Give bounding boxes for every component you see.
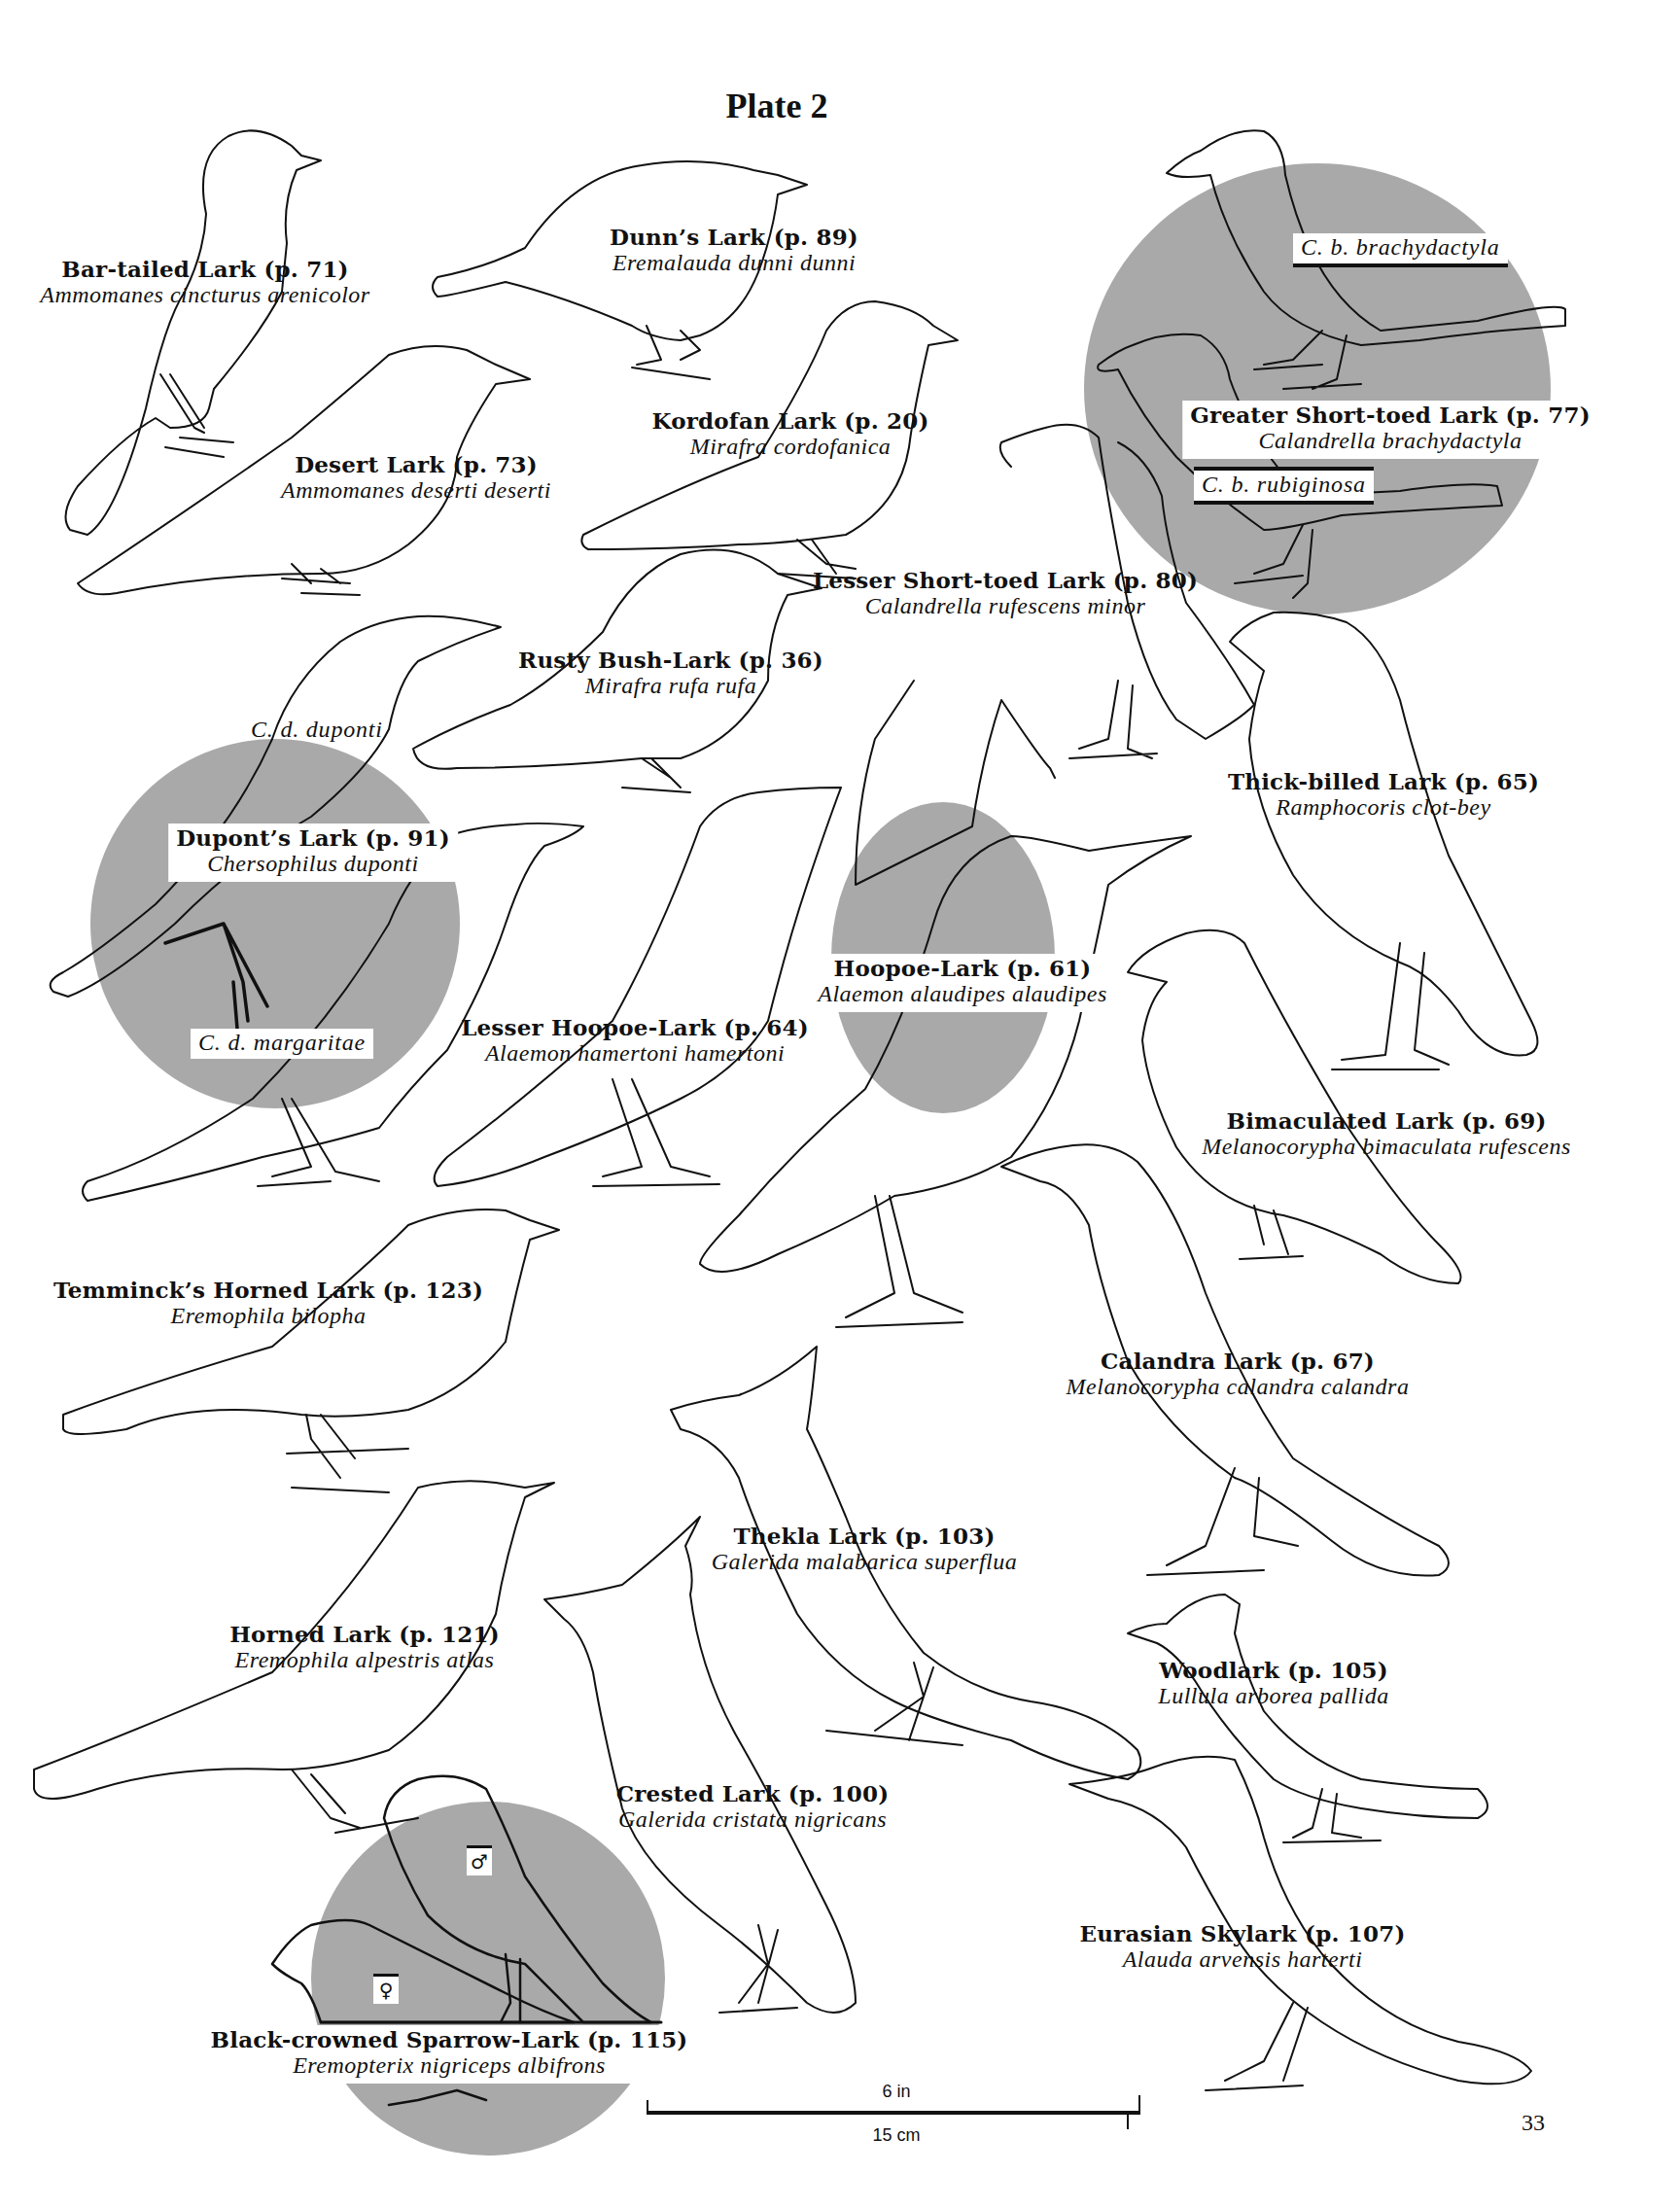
common-name: Rusty Bush-Lark (p. 36) bbox=[518, 648, 823, 673]
common-name: Dunn’s Lark (p. 89) bbox=[610, 225, 858, 250]
species-label-bimaculated-lark: Bimaculated Lark (p. 69) Melanocorypha b… bbox=[1202, 1108, 1571, 1161]
species-label-duponts-lark: Dupont’s Lark (p. 91) Chersophilus dupon… bbox=[168, 824, 458, 882]
duponts-lark-lower-legs bbox=[258, 1099, 379, 1186]
common-name: Greater Short-toed Lark (p. 77) bbox=[1190, 403, 1591, 428]
scientific-name: Eremalauda dunni dunni bbox=[610, 250, 858, 277]
scale-bar-centimeters: 15 cm bbox=[872, 2125, 920, 2146]
subspecies-label-rubiginosa: C. b. rubiginosa bbox=[1194, 467, 1374, 505]
scientific-name: Ammomanes deserti deserti bbox=[281, 477, 551, 505]
common-name: Bar-tailed Lark (p. 71) bbox=[40, 257, 369, 282]
common-name: Kordofan Lark (p. 20) bbox=[651, 408, 928, 434]
species-label-calandra-lark: Calandra Lark (p. 67) Melanocorypha cala… bbox=[1067, 1349, 1410, 1401]
greater-short-toed-disc bbox=[1084, 163, 1551, 614]
rusty-bush-lark-legs bbox=[622, 758, 690, 792]
dunns-lark-legs bbox=[632, 326, 710, 379]
species-label-thekla-lark: Thekla Lark (p. 103) Galerida malabarica… bbox=[712, 1524, 1018, 1576]
subspecies-label-margaritae: C. d. margaritae bbox=[191, 1029, 373, 1059]
thick-billed-lark-outline bbox=[1230, 613, 1537, 1056]
scientific-name: Melanocorypha calandra calandra bbox=[1067, 1374, 1410, 1401]
subspecies-label-brachydactyla: C. b. brachydactyla bbox=[1293, 233, 1508, 267]
species-label-hoopoe-lark: Hoopoe-Lark (p. 61) Alaemon alaudipes al… bbox=[810, 954, 1114, 1012]
species-label-eurasian-skylark: Eurasian Skylark (p. 107) Alauda arvensi… bbox=[1079, 1921, 1405, 1974]
species-label-crested-lark: Crested Lark (p. 100) Galerida cristata … bbox=[616, 1781, 890, 1834]
thick-billed-lark-legs bbox=[1332, 943, 1449, 1069]
scientific-name: Eremopterix nigriceps albifrons bbox=[211, 2052, 688, 2080]
horned-lark-legs bbox=[292, 1770, 418, 1833]
woodlark-legs bbox=[1283, 1789, 1381, 1842]
species-label-thick-billed-lark: Thick-billed Lark (p. 65) Ramphocoris cl… bbox=[1228, 769, 1539, 822]
scientific-name: Alaemon alaudipes alaudipes bbox=[818, 981, 1106, 1008]
common-name: Thick-billed Lark (p. 65) bbox=[1228, 769, 1539, 794]
scientific-name: Calandrella brachydactyla bbox=[1190, 428, 1591, 455]
eurasian-skylark-legs bbox=[1206, 2003, 1308, 2090]
scientific-name: Eremophila bilopha bbox=[53, 1303, 483, 1330]
scientific-name: Calandrella rufescens minor bbox=[813, 593, 1198, 620]
species-label-horned-lark: Horned Lark (p. 121) Eremophila alpestri… bbox=[229, 1622, 500, 1674]
hoopoe-lark-legs bbox=[836, 1196, 962, 1327]
calandra-lark-legs bbox=[1147, 1468, 1298, 1575]
species-label-rusty-bush-lark: Rusty Bush-Lark (p. 36) Mirafra rufa ruf… bbox=[518, 648, 823, 700]
common-name: Bimaculated Lark (p. 69) bbox=[1202, 1108, 1571, 1134]
desert-lark-legs bbox=[282, 564, 360, 595]
scientific-name: Mirafra cordofanica bbox=[651, 434, 928, 461]
common-name: Temminck’s Horned Lark (p. 123) bbox=[53, 1278, 483, 1303]
scale-bar-inches: 6 in bbox=[882, 2082, 910, 2102]
female-symbol: ♀ bbox=[373, 1974, 399, 2004]
species-label-bar-tailed-lark: Bar-tailed Lark (p. 71) Ammomanes cinctu… bbox=[40, 257, 369, 309]
common-name: Eurasian Skylark (p. 107) bbox=[1079, 1921, 1405, 1946]
bar-tailed-lark-legs bbox=[160, 374, 233, 457]
species-label-greater-short-toed-lark: Greater Short-toed Lark (p. 77) Calandre… bbox=[1182, 401, 1598, 459]
species-label-lesser-hoopoe-lark: Lesser Hoopoe-Lark (p. 64) Alaemon hamer… bbox=[461, 1015, 809, 1068]
thekla-lark-legs bbox=[826, 1663, 962, 1745]
common-name: Thekla Lark (p. 103) bbox=[712, 1524, 1018, 1549]
scientific-name: Alaemon hamertoni hamertoni bbox=[461, 1040, 809, 1068]
crested-lark-legs bbox=[719, 1925, 797, 2013]
scientific-name: Ramphocoris clot-bey bbox=[1228, 794, 1539, 822]
scientific-name: Mirafra rufa rufa bbox=[518, 673, 823, 700]
male-symbol: ♂ bbox=[467, 1845, 492, 1875]
scientific-name: Melanocorypha bimaculata rufescens bbox=[1202, 1134, 1571, 1161]
species-label-lesser-short-toed-lark: Lesser Short-toed Lark (p. 80) Calandrel… bbox=[813, 568, 1198, 620]
common-name: Hoopoe-Lark (p. 61) bbox=[818, 956, 1106, 981]
scientific-name: Eremophila alpestris atlas bbox=[229, 1647, 500, 1674]
subspecies-label-duponti: C. d. duponti bbox=[251, 717, 383, 743]
species-label-woodlark: Woodlark (p. 105) Lullula arborea pallid… bbox=[1158, 1658, 1388, 1710]
temmincks-horned-lark-legs bbox=[287, 1415, 408, 1492]
page-number: 33 bbox=[1522, 2110, 1545, 2136]
species-label-kordofan-lark: Kordofan Lark (p. 20) Mirafra cordofanic… bbox=[651, 408, 928, 461]
lesser-hoopoe-lark-legs bbox=[593, 1079, 719, 1186]
scientific-name: Ammomanes cincturus arenicolor bbox=[40, 282, 369, 309]
common-name: Desert Lark (p. 73) bbox=[281, 452, 551, 477]
lesser-short-toed-lark-legs bbox=[1069, 681, 1157, 758]
common-name: Black-crowned Sparrow-Lark (p. 115) bbox=[211, 2027, 688, 2052]
common-name: Dupont’s Lark (p. 91) bbox=[176, 825, 450, 851]
scientific-name: Galerida cristata nigricans bbox=[616, 1806, 890, 1834]
scientific-name: Chersophilus duponti bbox=[176, 851, 450, 878]
scientific-name: Alauda arvensis harterti bbox=[1079, 1946, 1405, 1974]
common-name: Horned Lark (p. 121) bbox=[229, 1622, 500, 1647]
plate-illustration bbox=[0, 0, 1680, 2208]
scientific-name: Lullula arborea pallida bbox=[1158, 1683, 1388, 1710]
species-label-temmincks-horned-lark: Temminck’s Horned Lark (p. 123) Eremophi… bbox=[53, 1278, 483, 1330]
species-label-black-crowned-sparrow-lark: Black-crowned Sparrow-Lark (p. 115) Erem… bbox=[203, 2025, 696, 2084]
scientific-name: Galerida malabarica superflua bbox=[712, 1549, 1018, 1576]
common-name: Woodlark (p. 105) bbox=[1158, 1658, 1388, 1683]
common-name: Crested Lark (p. 100) bbox=[616, 1781, 890, 1806]
lesser-hoopoe-lark-outline bbox=[435, 788, 841, 1186]
species-label-desert-lark: Desert Lark (p. 73) Ammomanes deserti de… bbox=[281, 452, 551, 505]
plate-title: Plate 2 bbox=[726, 86, 828, 126]
common-name: Lesser Hoopoe-Lark (p. 64) bbox=[461, 1015, 809, 1040]
common-name: Lesser Short-toed Lark (p. 80) bbox=[813, 568, 1198, 593]
species-label-dunns-lark: Dunn’s Lark (p. 89) Eremalauda dunni dun… bbox=[610, 225, 858, 277]
common-name: Calandra Lark (p. 67) bbox=[1067, 1349, 1410, 1374]
